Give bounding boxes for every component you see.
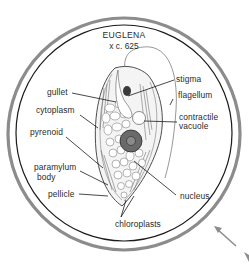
magnification: x c. 625: [84, 41, 164, 51]
label-paramylum-body-1: paramylum: [34, 163, 76, 172]
stigma-shape: [123, 86, 131, 96]
label-gullet: gullet: [47, 88, 68, 97]
label-paramylum-body-2: body: [37, 173, 56, 182]
contractile-vacuole-shape: [133, 112, 146, 125]
label-contractile-vacuole-2: vacuole: [179, 122, 209, 131]
arrow-tail-icon: [244, 252, 249, 262]
label-flagellum: flagellum: [178, 91, 212, 100]
label-nucleus: nucleus: [180, 192, 210, 201]
label-pyrenoid: pyrenoid: [30, 128, 63, 137]
label-cytoplasm: cytoplasm: [36, 106, 75, 115]
label-chloroplasts: chloroplasts: [115, 220, 161, 229]
label-pellicle: pellicle: [48, 190, 74, 199]
pointer-arrow-icon: [214, 226, 236, 246]
figure-title: EUGLENA: [84, 30, 164, 40]
label-stigma: stigma: [176, 75, 201, 84]
